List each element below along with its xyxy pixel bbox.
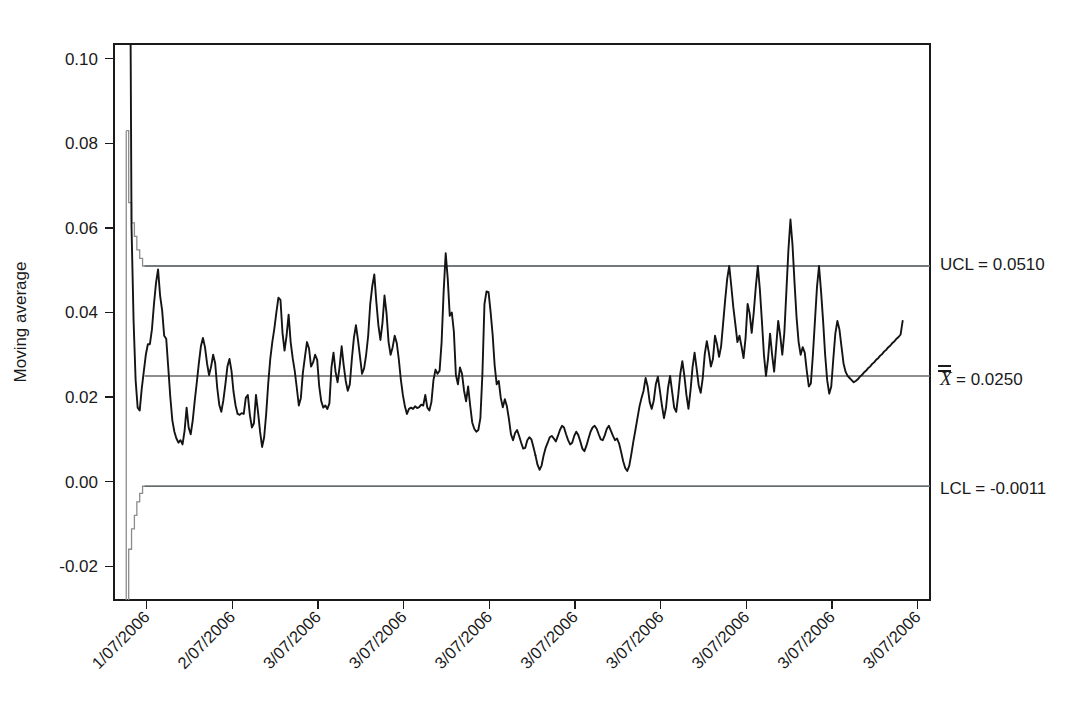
x-tick-label: 3/07/2006 bbox=[259, 607, 324, 672]
x-tick-label: 3/07/2006 bbox=[431, 607, 496, 672]
y-axis-title: Moving average bbox=[11, 262, 30, 383]
control-limit-lines bbox=[126, 131, 930, 621]
upper-control-limit-line bbox=[126, 131, 930, 266]
plot-frame bbox=[114, 44, 930, 600]
x-tick-label: 3/07/2006 bbox=[774, 607, 839, 672]
plot-area-border bbox=[114, 44, 930, 600]
y-tick-label: 0.04 bbox=[65, 303, 98, 322]
annotation-lcl: LCL = -0.0011 bbox=[940, 479, 1046, 498]
y-tick-label: 0.06 bbox=[65, 219, 98, 238]
y-tick-label: 0.10 bbox=[65, 50, 98, 69]
lower-control-limit-line bbox=[126, 486, 930, 621]
y-tick-label: -0.02 bbox=[59, 557, 98, 576]
annotation-centerline: X = 0.0250 bbox=[938, 366, 1023, 389]
lcl-label: LCL = -0.0011 bbox=[940, 479, 1046, 498]
x-tick-label: 3/07/2006 bbox=[517, 607, 582, 672]
y-tick-label: 0.08 bbox=[65, 134, 98, 153]
x-tick-label: 3/07/2006 bbox=[345, 607, 410, 672]
x-tick-label: 1/07/2006 bbox=[88, 607, 153, 672]
annotation-ucl: UCL = 0.0510 bbox=[940, 255, 1045, 274]
x-axis: 1/07/20062/07/20063/07/20063/07/20063/07… bbox=[88, 600, 924, 672]
ucl-label: UCL = 0.0510 bbox=[940, 255, 1045, 274]
x-tick-label: 2/07/2006 bbox=[174, 607, 239, 672]
moving-average-line-1 bbox=[535, 219, 902, 471]
chart-svg: 0.100.080.060.040.020.00-0.02 1/07/20062… bbox=[0, 0, 1082, 710]
x-tick-label: 3/07/2006 bbox=[859, 607, 924, 672]
y-axis: 0.100.080.060.040.020.00-0.02 bbox=[59, 50, 114, 576]
y-tick-label: 0.00 bbox=[65, 473, 98, 492]
control-chart-figure: 0.100.080.060.040.020.00-0.02 1/07/20062… bbox=[0, 0, 1082, 710]
data-series-lines bbox=[130, 0, 902, 471]
moving-average-line-0 bbox=[130, 0, 535, 455]
y-tick-label: 0.02 bbox=[65, 388, 98, 407]
x-tick-label: 3/07/2006 bbox=[602, 607, 667, 672]
centerline-label: = 0.0250 bbox=[956, 370, 1023, 389]
x-tick-label: 3/07/2006 bbox=[688, 607, 753, 672]
